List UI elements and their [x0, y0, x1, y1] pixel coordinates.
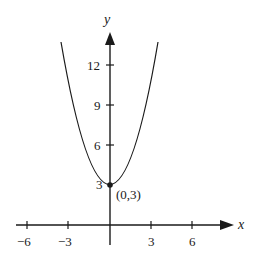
- x-tick-label: −6: [17, 234, 31, 249]
- x-axis-label: x: [237, 217, 245, 232]
- vertex-label: (0,3): [116, 187, 141, 202]
- y-axis-label: y: [102, 12, 111, 27]
- x-tick-label: 6: [189, 234, 196, 249]
- y-tick-label: 12: [87, 58, 100, 73]
- y-tick-label: 9: [94, 98, 101, 113]
- y-axis-arrow-icon: [105, 32, 115, 45]
- x-tick-label: 3: [148, 234, 155, 249]
- x-axis-arrow-icon: [220, 220, 234, 230]
- y-tick-label: 3: [96, 177, 103, 192]
- x-tick-label: −3: [58, 234, 72, 249]
- vertex-point: [107, 182, 113, 188]
- parabola-chart: x y −6 −3 3 6 12 9 6 3 (0,3): [0, 0, 258, 261]
- y-tick-label: 6: [94, 138, 101, 153]
